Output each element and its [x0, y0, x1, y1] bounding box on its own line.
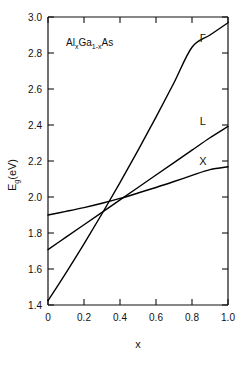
y-tick-label: 1.8: [28, 228, 42, 239]
x-tick-label: 0: [45, 312, 51, 323]
curve-X: [48, 167, 228, 215]
composition-annotation: AlxGa1-xAs: [66, 37, 113, 50]
y-axis-title-unit: (eV): [6, 159, 18, 180]
curve-label-L: L: [200, 115, 206, 127]
band-gap-chart-figure: 1.41.61.82.02.22.42.62.83.0 00.20.40.60.…: [0, 0, 245, 367]
y-tick-label: 2.4: [28, 120, 42, 131]
x-axis-title: x: [135, 338, 141, 350]
x-tick-label: 0.2: [77, 312, 91, 323]
curve-label-Γ: Γ: [200, 32, 206, 44]
x-tick-label: 0.6: [149, 312, 163, 323]
annotation-sub-1mx: 1-x: [92, 43, 102, 50]
x-tick-label: 0.4: [113, 312, 127, 323]
y-tick-label: 2.6: [28, 84, 42, 95]
annotation-ga: Ga: [78, 37, 92, 48]
y-axis-tick-labels: 1.41.61.82.02.22.42.62.83.0: [28, 12, 42, 311]
curve-label-X: X: [199, 155, 207, 167]
y-tick-label: 1.6: [28, 264, 42, 275]
chart-svg: 1.41.61.82.02.22.42.62.83.0 00.20.40.60.…: [0, 0, 245, 367]
y-axis-title-base: E: [6, 184, 18, 191]
annotation-as: As: [101, 37, 113, 48]
y-tick-label: 3.0: [28, 12, 42, 23]
curve-L: [48, 126, 228, 249]
y-tick-label: 2.8: [28, 48, 42, 59]
y-tick-label: 2.0: [28, 192, 42, 203]
y-tick-label: 1.4: [28, 300, 42, 311]
curve-labels: ΓLX: [199, 32, 207, 166]
y-axis-title: Eg(eV): [6, 159, 21, 191]
y-axis-title-text: Eg(eV): [6, 159, 21, 191]
x-tick-label: 0.8: [185, 312, 199, 323]
x-tick-label: 1.0: [221, 312, 235, 323]
annotation-al: Al: [66, 37, 75, 48]
x-axis-tick-labels: 00.20.40.60.81.0: [45, 312, 235, 323]
y-tick-label: 2.2: [28, 156, 42, 167]
